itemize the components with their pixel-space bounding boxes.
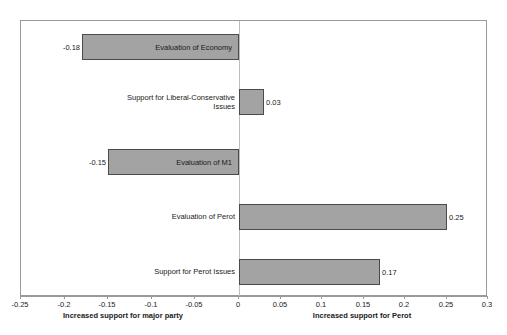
x-axis-tick bbox=[363, 296, 364, 299]
bar-support-for-perot-issues[interactable]: 0.17 bbox=[239, 259, 380, 285]
x-axis-tick-label: 0.1 bbox=[316, 300, 326, 309]
right-axis-caption: Increased support for Perot bbox=[313, 311, 411, 320]
bar-category-label: Support for Perot Issues bbox=[95, 259, 235, 285]
bar-row: 0.25 Evaluation of Perot bbox=[21, 204, 486, 230]
x-axis-tick bbox=[280, 296, 281, 299]
x-axis-tick-label: -0.1 bbox=[145, 300, 158, 309]
bar-evaluation-of-m1[interactable]: -0.15 Evaluation of M1 bbox=[108, 149, 239, 175]
x-axis-tick-label: 0.15 bbox=[356, 300, 371, 309]
bar-category-label: Evaluation of Perot bbox=[95, 204, 235, 230]
bar-category-label-line1: Support for Perot Issues bbox=[154, 267, 235, 277]
bar-category-label: Evaluation of Economy bbox=[155, 35, 232, 61]
x-axis-tick bbox=[487, 296, 488, 299]
x-axis-tick-label: -0.25 bbox=[11, 300, 28, 309]
bar-row: 0.17 Support for Perot Issues bbox=[21, 259, 486, 285]
bar-category-label-line1: Support for Liberal-Conservative bbox=[127, 93, 235, 102]
bar-category-label: Support for Liberal-Conservative Issues bbox=[105, 89, 235, 115]
left-axis-caption: Increased support for major party bbox=[63, 311, 183, 320]
bar-row: -0.18 Evaluation of Economy bbox=[21, 34, 486, 60]
bar-evaluation-of-economy[interactable]: -0.18 Evaluation of Economy bbox=[82, 34, 239, 60]
chart-page: -0.18 Evaluation of Economy 0.03 Support… bbox=[0, 0, 507, 335]
x-axis-tick bbox=[404, 296, 405, 299]
x-axis-tick bbox=[20, 296, 21, 299]
x-axis-tick-label: 0.3 bbox=[482, 300, 492, 309]
x-axis-tick bbox=[321, 296, 322, 299]
bar-value-label: 0.03 bbox=[266, 90, 281, 116]
bar-row: 0.03 Support for Liberal-Conservative Is… bbox=[21, 89, 486, 115]
bar-row: -0.15 Evaluation of M1 bbox=[21, 149, 486, 175]
bar-category-label-line2: Issues bbox=[213, 102, 235, 111]
x-axis-line bbox=[20, 296, 487, 297]
x-axis-tick bbox=[238, 296, 239, 299]
x-axis-tick bbox=[194, 296, 195, 299]
x-axis-tick bbox=[107, 296, 108, 299]
bar-category-label: Evaluation of M1 bbox=[176, 150, 232, 176]
bar-category-label-line1: Evaluation of Perot bbox=[172, 212, 235, 222]
x-axis-tick bbox=[446, 296, 447, 299]
x-axis-tick-label: 0.25 bbox=[439, 300, 454, 309]
bar-support-for-liberal-conservative-issues[interactable]: 0.03 bbox=[239, 89, 264, 115]
x-axis-tick-label: -0.15 bbox=[98, 300, 115, 309]
x-axis-tick-label: 0 bbox=[236, 300, 240, 309]
bar-evaluation-of-perot[interactable]: 0.25 bbox=[239, 204, 447, 230]
x-axis-tick bbox=[64, 296, 65, 299]
bar-value-label: -0.15 bbox=[89, 150, 106, 176]
x-axis-tick-label: 0.2 bbox=[399, 300, 409, 309]
bar-value-label: -0.18 bbox=[63, 35, 80, 61]
x-axis-tick-label: -0.05 bbox=[185, 300, 202, 309]
x-axis-tick-label: -0.2 bbox=[58, 300, 71, 309]
x-axis-tick-label: 0.05 bbox=[273, 300, 288, 309]
plot-area: -0.18 Evaluation of Economy 0.03 Support… bbox=[20, 20, 487, 296]
bar-value-label: 0.25 bbox=[449, 205, 464, 231]
x-axis-tick bbox=[151, 296, 152, 299]
bar-value-label: 0.17 bbox=[382, 260, 397, 286]
